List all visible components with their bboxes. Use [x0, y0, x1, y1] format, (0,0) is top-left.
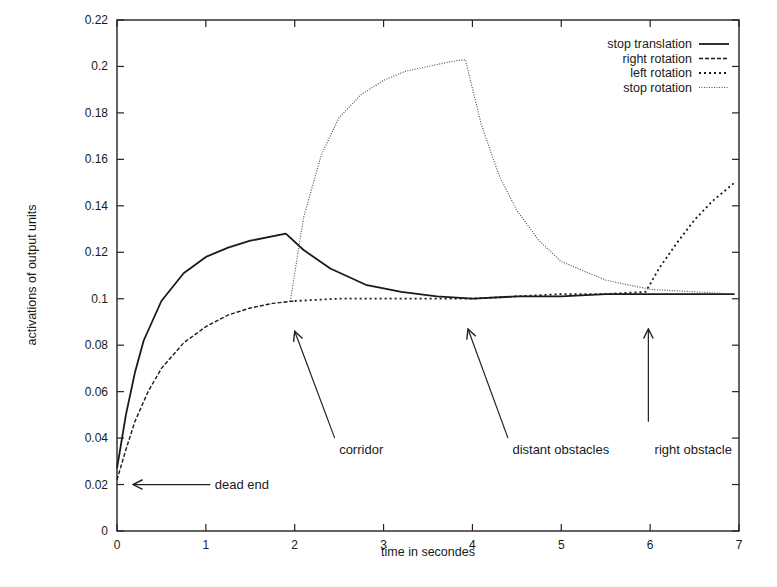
x-tick-label: 2 — [291, 538, 298, 552]
legend-label: stop rotation — [623, 81, 692, 95]
y-axis-title: activations of output units — [25, 204, 39, 345]
y-tick-label: 0 — [101, 524, 108, 538]
legend-label: left rotation — [630, 66, 692, 80]
y-tick-label: 0.18 — [85, 106, 109, 120]
x-tick-label: 5 — [558, 538, 565, 552]
plot-frame — [117, 20, 739, 531]
annotation-label: right obstacle — [655, 442, 732, 457]
annotation-label: dead end — [215, 477, 269, 492]
x-axis-ticks: 01234567 — [114, 20, 743, 552]
y-tick-label: 0.1 — [91, 292, 108, 306]
series-right-rotation — [117, 301, 295, 480]
y-tick-label: 0.02 — [85, 478, 109, 492]
y-tick-label: 0.08 — [85, 338, 109, 352]
x-tick-label: 7 — [736, 538, 743, 552]
x-tick-label: 1 — [203, 538, 210, 552]
x-tick-label: 0 — [114, 538, 121, 552]
annotation-arrow — [295, 331, 335, 438]
line-chart: 00.020.040.060.080.10.120.140.160.180.20… — [0, 0, 777, 587]
series-stop-translation — [117, 234, 735, 469]
annotation-label: corridor — [339, 442, 384, 457]
x-tick-label: 6 — [647, 538, 654, 552]
y-tick-label: 0.16 — [85, 152, 109, 166]
legend-label: stop translation — [607, 37, 692, 51]
y-tick-label: 0.06 — [85, 385, 109, 399]
y-tick-label: 0.22 — [85, 13, 109, 27]
annotation-arrow — [468, 329, 508, 438]
annotation-label: distant obstacles — [512, 442, 609, 457]
series-stop-rotation — [290, 60, 734, 302]
y-tick-label: 0.12 — [85, 245, 109, 259]
annotation-layer: dead endcorridordistant obstaclesright o… — [133, 329, 732, 492]
legend: stop translationright rotationleft rotat… — [607, 37, 729, 95]
y-tick-label: 0.14 — [85, 199, 109, 213]
y-tick-label: 0.04 — [85, 431, 109, 445]
legend-label: right rotation — [623, 52, 693, 66]
x-axis-title: time in secondes — [381, 545, 475, 559]
y-tick-label: 0.2 — [91, 59, 108, 73]
series-layer — [117, 60, 735, 480]
